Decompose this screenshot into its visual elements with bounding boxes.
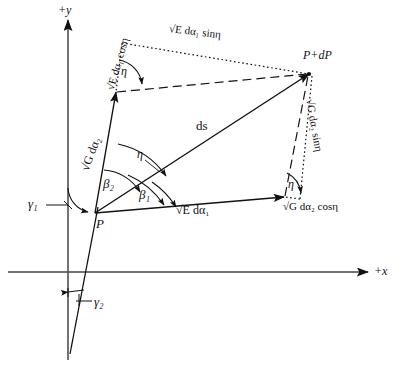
label-eta-center: η xyxy=(137,147,143,162)
label-eta-right: η xyxy=(288,177,294,192)
label-ds: ds xyxy=(196,118,208,134)
vertex-p-plus-dp xyxy=(307,72,311,76)
gamma1-angle-arc xyxy=(46,188,88,212)
label-g-dalpha2-cos-eta: √G dα₂ cosη xyxy=(283,200,338,212)
point-p-label: P xyxy=(96,216,104,232)
label-gamma2: γ₂ xyxy=(94,294,104,310)
reference-line-through-p xyxy=(70,207,98,354)
diagram-svg xyxy=(0,0,402,376)
axis-x-label: +x xyxy=(374,264,387,279)
diagram-canvas: +y +x P P+dP √E dα₁ √G dα₂ ds √E dα₁ cos… xyxy=(0,0,402,376)
point-p-plus-dp-label: P+dP xyxy=(303,48,332,63)
label-beta1: β₁ xyxy=(139,187,150,203)
vector-ds xyxy=(95,74,309,213)
dotted-g-cos-component xyxy=(285,197,300,199)
label-eta-topleft: η xyxy=(121,64,127,79)
label-gamma1: γ₁ xyxy=(28,196,38,212)
dotted-e-sin-component xyxy=(122,43,309,74)
axis-y-label: +y xyxy=(58,3,71,18)
label-e-dalpha1: √E dα₁ xyxy=(176,203,209,218)
dashed-side-top xyxy=(117,74,307,92)
label-beta2: β₂ xyxy=(103,176,114,192)
